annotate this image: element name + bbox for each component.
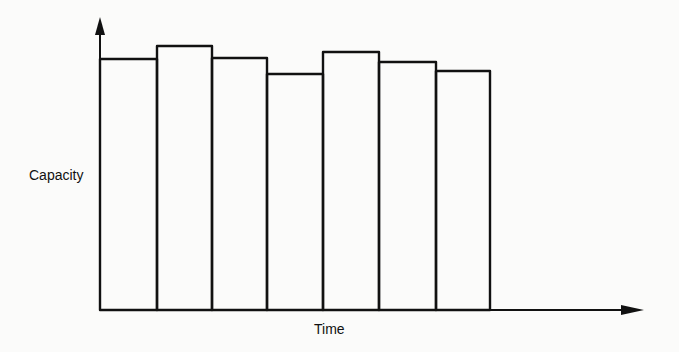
bars-group xyxy=(100,46,490,310)
bar-p3 xyxy=(212,58,267,310)
bar-p4 xyxy=(267,74,323,310)
bar-p6 xyxy=(379,62,436,310)
x-axis xyxy=(100,305,644,315)
capacity-time-chart: Capacity Time xyxy=(0,0,679,352)
y-axis xyxy=(95,17,105,310)
x-axis-label: Time xyxy=(314,321,345,337)
y-axis-arrow-icon xyxy=(95,17,105,35)
y-axis-label: Capacity xyxy=(29,167,83,183)
bar-p5 xyxy=(323,52,379,310)
bar-p1 xyxy=(100,59,157,310)
x-axis-arrow-icon xyxy=(621,305,644,315)
bar-p7 xyxy=(436,71,490,310)
bar-p2 xyxy=(157,46,212,310)
